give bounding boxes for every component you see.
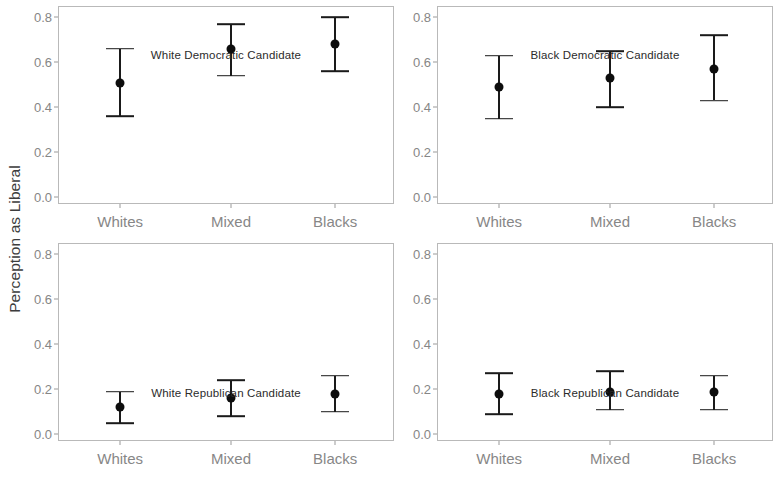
error-bar-upper-cap — [485, 55, 513, 57]
y-tick-label: 0.8 — [413, 10, 431, 25]
y-tick-mark — [54, 299, 58, 300]
error-bar-lower-cap — [700, 409, 728, 411]
error-bar-upper-cap — [596, 370, 624, 372]
y-tick-mark — [54, 434, 58, 435]
y-tick-label: 0.6 — [34, 292, 52, 307]
error-bar-lower-cap — [106, 115, 134, 117]
y-tick-mark — [54, 152, 58, 153]
x-tick-mark — [120, 441, 121, 445]
panel-caption-3: White Republican Candidate — [151, 387, 301, 399]
x-tick-mark — [499, 204, 500, 208]
x-tick-label-whites: Whites — [476, 450, 522, 467]
y-tick-mark — [433, 254, 437, 255]
error-bar-lower-cap — [106, 422, 134, 424]
chart-panel-2: 0.00.20.40.60.8WhitesMixedBlacksBlack De… — [437, 6, 773, 204]
error-bar-upper-cap — [321, 375, 349, 377]
y-tick-label: 0.2 — [34, 145, 52, 160]
x-tick-mark — [335, 441, 336, 445]
x-tick-label-mixed: Mixed — [211, 213, 251, 230]
data-point — [710, 65, 719, 74]
y-tick-mark — [433, 434, 437, 435]
y-tick-mark — [54, 254, 58, 255]
y-tick-label: 0.4 — [413, 337, 431, 352]
y-tick-label: 0.6 — [413, 55, 431, 70]
error-bar-upper-cap — [106, 48, 134, 50]
error-bar-upper-cap — [700, 375, 728, 377]
error-bar-upper-cap — [106, 391, 134, 393]
y-tick-label: 0.8 — [413, 247, 431, 262]
y-tick-mark — [54, 197, 58, 198]
y-tick-mark — [433, 389, 437, 390]
plot-area — [58, 6, 394, 204]
y-tick-mark — [433, 62, 437, 63]
x-tick-label-whites: Whites — [97, 213, 143, 230]
x-tick-label-blacks: Blacks — [313, 450, 357, 467]
error-bar-lower-cap — [321, 70, 349, 72]
y-tick-label: 0.6 — [34, 55, 52, 70]
y-tick-label: 0.2 — [413, 382, 431, 397]
y-tick-label: 0.4 — [413, 100, 431, 115]
y-tick-label: 0.4 — [34, 337, 52, 352]
chart-panel-3: 0.00.20.40.60.8WhitesMixedBlacksWhite Re… — [58, 243, 394, 441]
y-tick-label: 0.4 — [34, 100, 52, 115]
y-tick-label: 0.8 — [34, 10, 52, 25]
error-bar-upper-cap — [700, 34, 728, 36]
y-tick-mark — [54, 389, 58, 390]
x-tick-label-blacks: Blacks — [313, 213, 357, 230]
y-tick-label: 0.6 — [413, 292, 431, 307]
data-point — [116, 403, 125, 412]
chart-panel-1: 0.00.20.40.60.8WhitesMixedBlacksWhite De… — [58, 6, 394, 204]
y-tick-label: 0.8 — [34, 247, 52, 262]
y-axis-title: Perception as Liberal — [2, 0, 28, 477]
y-tick-mark — [433, 299, 437, 300]
y-tick-label: 0.2 — [34, 382, 52, 397]
data-point — [331, 40, 340, 49]
y-tick-label: 0.0 — [413, 190, 431, 205]
y-tick-mark — [433, 17, 437, 18]
figure-root: Perception as Liberal 0.00.20.40.60.8Whi… — [0, 0, 782, 477]
y-tick-mark — [433, 197, 437, 198]
data-point — [606, 74, 615, 83]
x-tick-label-blacks: Blacks — [692, 213, 736, 230]
data-point — [116, 78, 125, 87]
y-tick-label: 0.0 — [34, 190, 52, 205]
y-tick-mark — [433, 344, 437, 345]
error-bar-lower-cap — [596, 409, 624, 411]
y-tick-mark — [433, 107, 437, 108]
data-point — [495, 83, 504, 92]
y-tick-label: 0.2 — [413, 145, 431, 160]
y-axis-title-label: Perception as Liberal — [6, 165, 24, 313]
y-tick-mark — [54, 344, 58, 345]
error-bar-lower-cap — [217, 415, 245, 417]
error-bar-upper-cap — [217, 23, 245, 25]
y-tick-mark — [54, 62, 58, 63]
x-tick-label-blacks: Blacks — [692, 450, 736, 467]
error-bar-lower-cap — [596, 106, 624, 108]
y-tick-mark — [433, 152, 437, 153]
y-tick-label: 0.0 — [34, 427, 52, 442]
data-point — [495, 389, 504, 398]
error-bar-lower-cap — [217, 75, 245, 77]
plot-area — [437, 243, 773, 441]
data-point — [331, 389, 340, 398]
panel-caption-2: Black Democratic Candidate — [531, 49, 680, 61]
y-tick-mark — [54, 107, 58, 108]
chart-panel-4: 0.00.20.40.60.8WhitesMixedBlacksBlack Re… — [437, 243, 773, 441]
y-tick-mark — [54, 17, 58, 18]
x-tick-mark — [610, 204, 611, 208]
error-bar-lower-cap — [700, 100, 728, 102]
x-tick-label-mixed: Mixed — [590, 450, 630, 467]
x-tick-label-whites: Whites — [97, 450, 143, 467]
x-tick-label-mixed: Mixed — [211, 450, 251, 467]
x-tick-mark — [231, 204, 232, 208]
x-tick-mark — [610, 441, 611, 445]
x-tick-mark — [499, 441, 500, 445]
y-tick-label: 0.0 — [413, 427, 431, 442]
error-bar-lower-cap — [485, 413, 513, 415]
x-tick-mark — [231, 441, 232, 445]
x-tick-mark — [335, 204, 336, 208]
error-bar-lower-cap — [321, 411, 349, 413]
panel-caption-4: Black Republican Candidate — [531, 387, 679, 399]
x-tick-label-mixed: Mixed — [590, 213, 630, 230]
error-bar-upper-cap — [485, 373, 513, 375]
